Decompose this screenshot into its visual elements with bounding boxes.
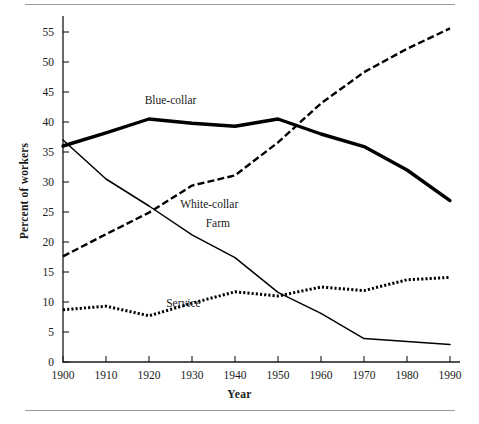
figure-container: Percent of workers Year 0510152025303540… <box>0 0 479 424</box>
y-tick-label: 10 <box>43 296 55 308</box>
y-axis-tick-group: 0510152025303540455055 <box>43 26 70 368</box>
x-axis-title: Year <box>0 388 479 400</box>
y-tick-label: 35 <box>43 146 55 158</box>
series-line-farm <box>63 140 450 345</box>
bottom-divider-rule <box>25 410 455 411</box>
y-tick-label: 45 <box>43 86 55 98</box>
x-tick-label: 1950 <box>267 369 290 381</box>
x-tick-label: 1970 <box>353 369 376 381</box>
y-tick-label: 30 <box>43 176 55 188</box>
y-tick-label: 5 <box>48 326 54 338</box>
x-tick-label: 1990 <box>439 369 462 381</box>
series-label-service: Service <box>166 297 200 309</box>
x-tick-label: 1920 <box>138 369 161 381</box>
y-tick-label: 25 <box>43 206 55 218</box>
x-tick-label: 1980 <box>396 369 419 381</box>
x-tick-label: 1900 <box>52 369 75 381</box>
x-axis-tick-group: 1900191019201930194019501960197019801990 <box>52 356 462 381</box>
y-tick-label: 20 <box>43 236 55 248</box>
y-tick-label: 15 <box>43 266 55 278</box>
x-tick-label: 1930 <box>181 369 204 381</box>
series-label-farm: Farm <box>206 217 230 229</box>
series-label-blue-collar: Blue-collar <box>145 94 197 106</box>
y-tick-label: 40 <box>43 116 55 128</box>
series-line-white-collar <box>63 28 450 256</box>
series-group <box>63 28 450 344</box>
x-tick-label: 1960 <box>310 369 333 381</box>
series-label-white-collar: White-collar <box>180 198 238 210</box>
y-tick-label: 50 <box>43 56 55 68</box>
x-tick-label: 1910 <box>95 369 118 381</box>
y-axis-title: Percent of workers <box>18 121 30 261</box>
top-divider-rule <box>25 4 455 5</box>
x-tick-label: 1940 <box>224 369 247 381</box>
y-tick-label: 55 <box>43 26 55 38</box>
series-line-service <box>63 277 450 315</box>
line-chart-plot: 0510152025303540455055 19001910192019301… <box>0 0 479 424</box>
y-tick-label: 0 <box>48 356 54 368</box>
